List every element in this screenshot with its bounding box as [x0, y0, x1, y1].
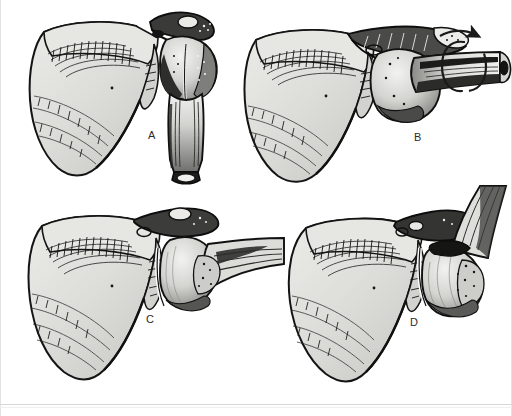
panel-b-drawing — [228, 8, 512, 188]
medullary-canal-a — [177, 174, 195, 182]
panel-d-drawing — [266, 186, 512, 396]
panel-c-drawing — [10, 196, 290, 396]
panel-a-drawing — [8, 4, 238, 189]
panel-label-d: D — [410, 317, 418, 328]
humerus-c — [157, 237, 284, 311]
scapula-d — [289, 219, 425, 382]
panel-d: D — [266, 186, 512, 396]
panel-a: A — [8, 4, 238, 189]
nutrient-foramen-c — [111, 285, 114, 288]
humerus-b — [371, 49, 511, 122]
panel-label-b: B — [414, 132, 422, 143]
panel-label-a: A — [148, 130, 156, 141]
scapula-b — [244, 30, 375, 182]
acromion-facet-a — [178, 16, 198, 28]
panel-c: C — [10, 196, 290, 396]
nutrient-foramen-b — [325, 95, 328, 98]
scapula-a — [30, 22, 159, 175]
humerus-d — [419, 186, 506, 317]
figure-root: A — [0, 0, 512, 416]
scapula-c — [29, 216, 164, 379]
panel-b: B — [228, 8, 512, 188]
nutrient-foramen-a — [111, 87, 114, 90]
panel-label-c: C — [146, 314, 154, 325]
figure-bottom-rule-secondary — [0, 407, 512, 408]
acromion-facet-d — [409, 222, 423, 231]
figure-left-edge — [0, 0, 1, 416]
nutrient-foramen-d — [373, 287, 376, 290]
greater-tuberosity-c — [194, 256, 221, 294]
coracoid-process-a — [152, 30, 164, 38]
medullary-canal-b — [500, 61, 508, 75]
acromion-facet-c — [169, 208, 191, 220]
humerus-a — [160, 37, 217, 184]
figure-bottom-rule — [0, 404, 512, 405]
